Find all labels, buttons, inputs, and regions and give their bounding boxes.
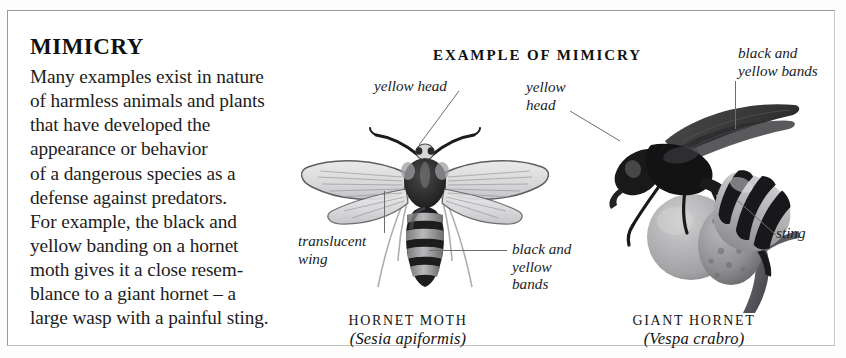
giant-hornet-illustration <box>603 99 818 314</box>
page-root: MIMICRY Many examples exist in nature of… <box>0 0 846 358</box>
article-body: Many examples exist in nature of harmles… <box>30 65 298 330</box>
label-moth-black-yellow-bands: black and yellow bands <box>512 240 571 293</box>
leader-line-hornet-sting <box>736 199 780 239</box>
leader-line-moth-wing <box>384 191 385 233</box>
leader-line-moth-head <box>413 89 463 149</box>
figure-title: EXAMPLE OF MIMICRY <box>433 47 642 64</box>
article-text-column: MIMICRY Many examples exist in nature of… <box>30 35 298 330</box>
caption-common-name: GIANT HORNET <box>594 312 794 329</box>
leader-line-hornet-head <box>568 109 624 145</box>
caption-latin-name: (Vespa crabro) <box>594 329 794 348</box>
leader-line-moth-bands <box>429 250 507 251</box>
caption-latin-name: (Sesia apiformis) <box>308 329 508 348</box>
leader-line-hornet-bands <box>735 81 736 129</box>
page-title: MIMICRY <box>30 35 298 59</box>
caption-giant-hornet: GIANT HORNET (Vespa crabro) <box>594 312 794 348</box>
label-hornet-yellow-head: yellow head <box>526 78 566 113</box>
label-hornet-sting: sting <box>776 224 806 242</box>
caption-common-name: HORNET MOTH <box>308 312 508 329</box>
label-moth-translucent-wing: translucent wing <box>298 232 366 267</box>
label-moth-yellow-head: yellow head <box>374 77 447 95</box>
caption-hornet-moth: HORNET MOTH (Sesia apiformis) <box>308 312 508 348</box>
content-frame: MIMICRY Many examples exist in nature of… <box>7 10 835 346</box>
label-hornet-black-yellow-bands: black and yellow bands <box>738 44 818 79</box>
